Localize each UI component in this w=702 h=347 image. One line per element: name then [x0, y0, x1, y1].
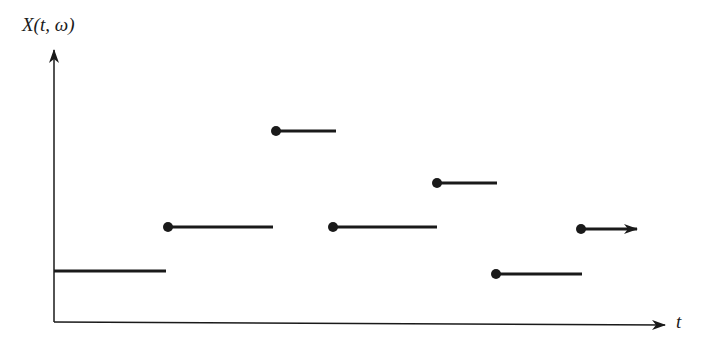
step-segment: [576, 224, 637, 234]
step-segment: [491, 269, 582, 279]
closed-endpoint-dot: [328, 222, 338, 232]
step-segment: [432, 178, 497, 188]
closed-endpoint-dot: [432, 178, 442, 188]
closed-endpoint-dot: [491, 269, 501, 279]
closed-endpoint-dot: [271, 126, 281, 136]
step-segment: [163, 222, 273, 232]
x-axis-label: t: [676, 311, 681, 333]
x-axis: [54, 322, 665, 325]
closed-endpoint-dot: [576, 224, 586, 234]
process-diagram: [0, 0, 702, 347]
y-axis-label: X(t, ω): [22, 14, 74, 36]
step-segments: [54, 126, 637, 279]
step-segment: [271, 126, 336, 136]
step-segment: [328, 222, 437, 232]
closed-endpoint-dot: [163, 222, 173, 232]
